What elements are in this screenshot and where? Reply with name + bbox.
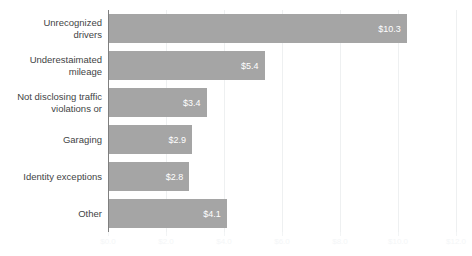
bar-row: $2.8 bbox=[108, 158, 456, 195]
x-tick-label: $12.0 bbox=[446, 238, 466, 246]
category-axis-labels: Unrecognized drivers Underestaimated mil… bbox=[0, 10, 102, 232]
bar-row: $4.1 bbox=[108, 195, 456, 232]
plot-area: $10.3 $5.4 $3.4 $2.9 $2.8 bbox=[108, 10, 456, 232]
x-tick-mark bbox=[398, 232, 399, 236]
x-tick-mark bbox=[166, 232, 167, 236]
bar-chart: Unrecognized drivers Underestaimated mil… bbox=[0, 0, 472, 256]
bar-unrecognized-drivers[interactable]: $10.3 bbox=[108, 14, 407, 43]
category-label-line: Underestaimated bbox=[30, 54, 102, 66]
category-label-line: mileage bbox=[30, 66, 102, 78]
x-tick-label: $6.0 bbox=[274, 238, 290, 246]
x-tick-mark bbox=[282, 232, 283, 236]
bar-other[interactable]: $4.1 bbox=[108, 199, 227, 228]
category-label-not-disclosing-traffic-violations: Not disclosing traffic violations or bbox=[0, 84, 102, 121]
x-tick-label: $2.0 bbox=[158, 238, 174, 246]
bar-row: $10.3 bbox=[108, 10, 456, 47]
bar-value-label: $2.8 bbox=[166, 172, 184, 181]
category-label-underestaimated-mileage: Underestaimated mileage bbox=[0, 47, 102, 84]
x-tick-mark bbox=[340, 232, 341, 236]
bar-garaging[interactable]: $2.9 bbox=[108, 125, 192, 154]
category-label-identity-exceptions: Identity exceptions bbox=[0, 158, 102, 195]
category-label-other: Other bbox=[0, 195, 102, 232]
bar-row: $3.4 bbox=[108, 84, 456, 121]
axis-line-zero bbox=[108, 10, 109, 232]
category-label-line: Other bbox=[78, 208, 102, 220]
gridline bbox=[456, 10, 457, 232]
bar-not-disclosing-traffic-violations[interactable]: $3.4 bbox=[108, 88, 207, 117]
bar-value-label: $2.9 bbox=[169, 135, 187, 144]
bar-value-label: $10.3 bbox=[378, 24, 401, 33]
x-tick-label: $10.0 bbox=[388, 238, 408, 246]
bar-value-label: $4.1 bbox=[203, 209, 221, 218]
category-label-line: violations or bbox=[17, 103, 102, 115]
category-label-line: Identity exceptions bbox=[23, 171, 102, 183]
category-label-line: drivers bbox=[43, 29, 102, 41]
x-tick-label: $8.0 bbox=[332, 238, 348, 246]
category-label-line: Garaging bbox=[63, 134, 102, 146]
category-label-garaging: Garaging bbox=[0, 121, 102, 158]
x-tick-mark bbox=[108, 232, 109, 236]
category-label-line: Unrecognized bbox=[43, 17, 102, 29]
category-label-unrecognized-drivers: Unrecognized drivers bbox=[0, 10, 102, 47]
x-tick-label: $4.0 bbox=[216, 238, 232, 246]
bar-identity-exceptions[interactable]: $2.8 bbox=[108, 162, 189, 191]
bar-row: $2.9 bbox=[108, 121, 456, 158]
x-tick-label: $0.0 bbox=[100, 238, 116, 246]
bar-row: $5.4 bbox=[108, 47, 456, 84]
x-tick-mark bbox=[456, 232, 457, 236]
bars-container: $10.3 $5.4 $3.4 $2.9 $2.8 bbox=[108, 10, 456, 232]
category-label-line: Not disclosing traffic bbox=[17, 91, 102, 103]
bar-underestaimated-mileage[interactable]: $5.4 bbox=[108, 51, 265, 80]
x-axis: $0.0$2.0$4.0$6.0$8.0$10.0$12.0 bbox=[108, 232, 456, 256]
bar-value-label: $3.4 bbox=[183, 98, 201, 107]
bar-value-label: $5.4 bbox=[241, 61, 259, 70]
x-tick-mark bbox=[224, 232, 225, 236]
